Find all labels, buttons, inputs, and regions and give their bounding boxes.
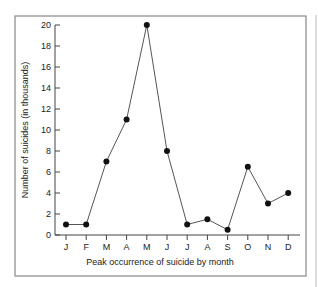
- data-series: [63, 22, 291, 233]
- data-point-marker: [184, 222, 190, 228]
- x-tick-label: O: [244, 242, 251, 252]
- x-tick-label: J: [165, 242, 170, 252]
- y-tick-label: 0: [46, 230, 51, 240]
- data-point-marker: [63, 222, 69, 228]
- y-tick-label: 20: [41, 20, 51, 30]
- y-axis-title: Number of suicides (in thousands): [20, 62, 30, 199]
- y-tick-label: 12: [41, 104, 51, 114]
- x-tick-label: F: [83, 242, 89, 252]
- data-point-marker: [245, 164, 251, 170]
- x-tick-label: J: [185, 242, 190, 252]
- data-point-marker: [285, 190, 291, 196]
- y-tick-label: 2: [46, 209, 51, 219]
- y-tick-label: 4: [46, 188, 51, 198]
- series-line: [66, 25, 288, 230]
- y-tick-label: 18: [41, 41, 51, 51]
- y-tick-label: 8: [46, 146, 51, 156]
- data-point-marker: [265, 201, 271, 207]
- data-point-marker: [83, 222, 89, 228]
- y-tick-label: 16: [41, 62, 51, 72]
- x-tick-label: M: [143, 242, 151, 252]
- x-tick-label: N: [265, 242, 272, 252]
- data-point-marker: [103, 159, 109, 165]
- x-tick-label: M: [103, 242, 111, 252]
- x-tick-label: S: [225, 242, 231, 252]
- line-chart: 02468101214161820JFMAMJJASOND Peak occur…: [0, 0, 318, 287]
- x-axis-title: Peak occurrence of suicide by month: [86, 257, 234, 267]
- data-point-marker: [124, 117, 130, 123]
- y-tick-label: 6: [46, 167, 51, 177]
- x-tick-label: A: [124, 242, 130, 252]
- data-point-marker: [144, 22, 150, 28]
- y-tick-label: 14: [41, 83, 51, 93]
- chart-frame: [15, 16, 306, 276]
- y-tick-label: 10: [41, 125, 51, 135]
- axes: 02468101214161820JFMAMJJASOND: [41, 20, 300, 252]
- data-point-marker: [204, 216, 210, 222]
- x-tick-label: A: [204, 242, 210, 252]
- data-point-marker: [164, 148, 170, 154]
- x-tick-label: J: [64, 242, 69, 252]
- data-point-marker: [225, 227, 231, 233]
- x-tick-label: D: [285, 242, 292, 252]
